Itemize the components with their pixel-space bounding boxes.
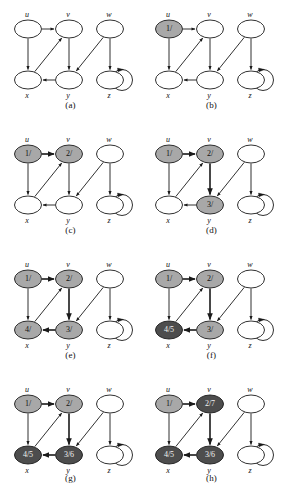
node-shape-z	[238, 446, 265, 464]
node-z: z	[238, 71, 265, 100]
node-z: z	[238, 321, 265, 350]
node-timestamp-x: 4/5	[23, 450, 33, 459]
node-shape-w	[238, 270, 265, 288]
node-shape-z	[238, 71, 265, 89]
edge-x-to-v	[176, 38, 203, 72]
edge-w-to-y	[217, 37, 244, 71]
node-name-v: v	[207, 385, 211, 394]
node-name-v: v	[66, 135, 70, 144]
panel-a: uvwxyz(a)	[0, 0, 141, 125]
panel-c: 1/u2/vwxyz(c)	[0, 125, 141, 250]
node-u: 1/u	[156, 10, 183, 38]
panel-caption-e: (e)	[0, 350, 141, 360]
node-w: w	[97, 10, 124, 38]
node-timestamp-u: 1/	[166, 274, 173, 283]
node-x: x	[156, 196, 183, 225]
graph-e: 1/u2/vw4/x3/yz	[0, 250, 141, 350]
node-shape-y	[56, 71, 83, 89]
self-loop-arrowhead-z	[118, 193, 124, 197]
node-name-u: u	[25, 135, 29, 144]
node-shape-z	[238, 321, 265, 339]
node-v: v	[56, 10, 83, 38]
edge-w-to-y	[76, 287, 103, 321]
node-shape-w	[238, 20, 265, 38]
node-name-v: v	[207, 135, 211, 144]
node-name-x: x	[24, 216, 29, 225]
node-timestamp-v: 2/	[207, 274, 214, 283]
panel-caption-g: (g)	[0, 473, 141, 483]
node-shape-v	[56, 20, 83, 38]
node-y: 3/6y	[56, 446, 83, 475]
node-timestamp-y: 3/	[207, 200, 214, 209]
node-u: 1/u	[156, 135, 183, 163]
node-shape-z	[97, 321, 124, 339]
node-timestamp-v: 2/7	[205, 399, 215, 408]
node-x: 4/5x	[156, 446, 183, 475]
edge-w-to-y	[217, 412, 244, 446]
node-z: z	[238, 196, 265, 225]
self-loop-arrowhead-z	[118, 318, 124, 322]
node-u: u	[15, 10, 42, 38]
node-shape-w	[97, 270, 124, 288]
node-name-u: u	[166, 135, 170, 144]
edge-x-to-v	[176, 288, 203, 322]
panel-e: 1/u2/vw4/x3/yz(e)	[0, 250, 141, 375]
graph-c: 1/u2/vwxyz	[0, 125, 141, 225]
node-w: w	[97, 135, 124, 163]
node-timestamp-y: 3/	[66, 325, 73, 334]
node-timestamp-y: 3/	[207, 325, 214, 334]
node-y: y	[197, 71, 224, 100]
node-y: 3/y	[197, 196, 224, 225]
panel-caption-d: (d)	[141, 225, 282, 235]
panel-b: 1/uvwxyz(b)	[141, 0, 282, 125]
node-shape-w	[238, 145, 265, 163]
panel-caption-f: (f)	[141, 350, 282, 360]
edge-x-to-v	[35, 413, 62, 447]
node-name-w: w	[106, 385, 112, 394]
node-x: x	[156, 71, 183, 100]
node-timestamp-v: 2/	[66, 274, 73, 283]
node-w: w	[238, 260, 265, 288]
node-shape-x	[156, 196, 183, 214]
node-w: w	[97, 385, 124, 413]
node-name-y: y	[65, 216, 70, 225]
node-y: 3/y	[197, 321, 224, 350]
graph-h: 1/u2/7vw4/5x3/6yz	[141, 375, 282, 475]
node-name-x: x	[165, 341, 170, 350]
node-name-y: y	[65, 91, 70, 100]
node-name-v: v	[66, 260, 70, 269]
node-name-z: z	[247, 216, 252, 225]
node-shape-x	[15, 71, 42, 89]
node-u: 1/u	[156, 385, 183, 413]
node-shape-u	[15, 20, 42, 38]
node-v: v	[197, 10, 224, 38]
panel-d: 1/u2/vwx3/yz(d)	[141, 125, 282, 250]
node-shape-w	[97, 20, 124, 38]
node-v: 2/7v	[197, 385, 224, 413]
node-u: 1/u	[15, 385, 42, 413]
node-u: 1/u	[156, 260, 183, 288]
node-v: 2/v	[56, 385, 83, 413]
edge-w-to-y	[76, 162, 103, 196]
node-timestamp-y: 3/6	[64, 450, 74, 459]
self-loop-arrowhead-z	[259, 443, 265, 447]
node-name-w: w	[247, 385, 253, 394]
node-timestamp-u: 1/	[25, 274, 32, 283]
node-shape-w	[238, 395, 265, 413]
node-name-u: u	[25, 10, 29, 19]
edge-w-to-y	[76, 412, 103, 446]
node-timestamp-x: 4/5	[164, 325, 174, 334]
node-name-u: u	[166, 10, 170, 19]
graph-f: 1/u2/vw4/5x3/yz	[141, 250, 282, 350]
self-loop-arrowhead-z	[259, 68, 265, 72]
panel-caption-a: (a)	[0, 100, 141, 110]
node-y: 3/y	[56, 321, 83, 350]
node-shape-x	[15, 196, 42, 214]
node-name-y: y	[206, 341, 211, 350]
edge-x-to-v	[35, 163, 62, 197]
node-timestamp-v: 2/	[66, 399, 73, 408]
node-w: w	[97, 260, 124, 288]
panel-f: 1/u2/vw4/5x3/yz(f)	[141, 250, 282, 375]
edge-x-to-v	[35, 38, 62, 72]
node-name-z: z	[106, 216, 111, 225]
